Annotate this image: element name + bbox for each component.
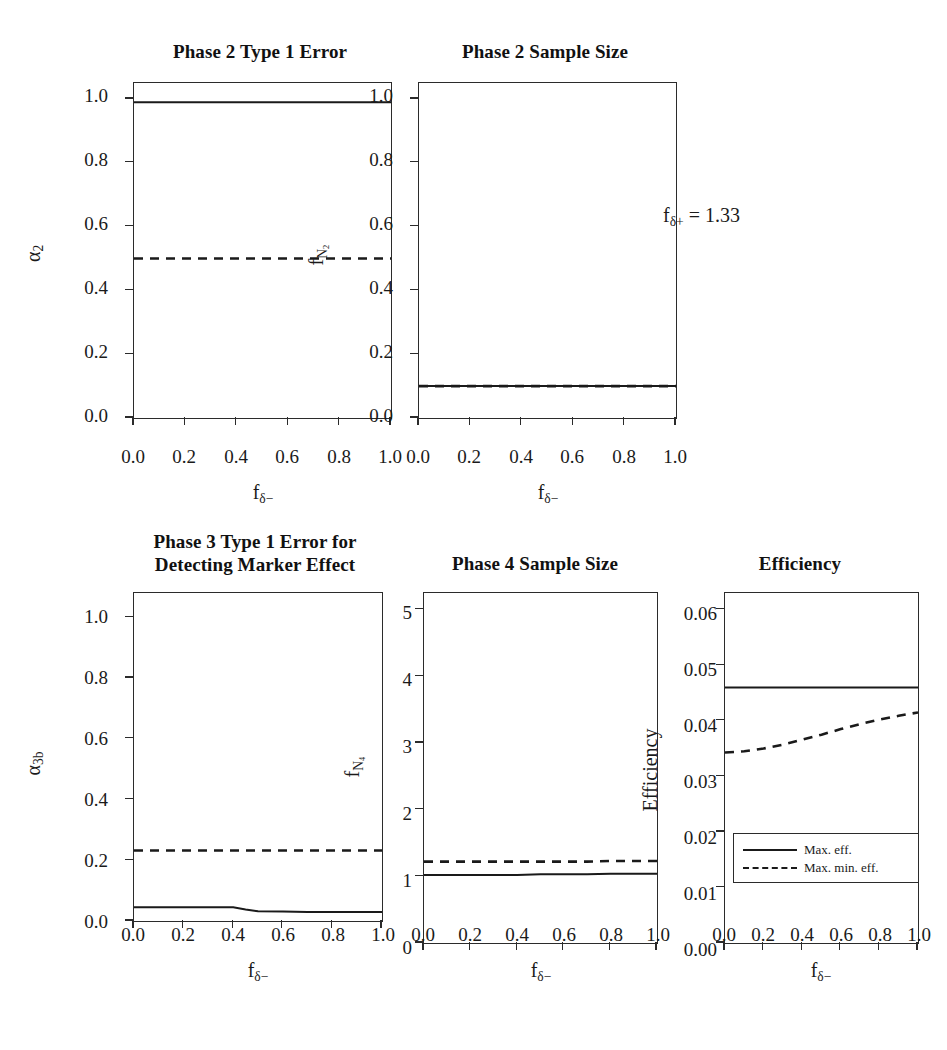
panel-title-phase4-sample-size: Phase 4 Sample Size (390, 552, 680, 575)
ytick-label: 0.01 (661, 884, 717, 903)
xtick-label: 0.6 (547, 447, 597, 466)
ytick-mark (125, 859, 133, 860)
xaxis-label-fdelta-minus: fδ− (468, 482, 628, 509)
yaxis-label-text: fN4 (341, 757, 363, 778)
ytick-mark (716, 775, 724, 776)
series-layer (725, 593, 918, 943)
ytick-mark (125, 616, 133, 617)
xtick-label: 0.4 (492, 925, 542, 944)
xtick-mark (520, 417, 521, 425)
legend-line-dashed-icon (743, 863, 797, 873)
xtick-label: 0.4 (496, 447, 546, 466)
plot-area-phase2-type1-error (133, 82, 392, 419)
yaxis-label-efficiency: Efficiency (640, 710, 660, 830)
legend-label: Max. min. eff. (804, 861, 879, 875)
xtick-label: 0.4 (208, 925, 258, 944)
ytick-mark (415, 675, 423, 676)
ytick-label: 0.2 (347, 342, 393, 361)
ytick-mark (410, 225, 418, 226)
ytick-mark (125, 676, 133, 677)
plot-area-efficiency (724, 592, 919, 944)
ytick-mark (716, 830, 724, 831)
ytick-label: 0.2 (62, 851, 108, 870)
xtick-label: 0.0 (108, 925, 158, 944)
xtick-label: 0.0 (108, 447, 158, 466)
ytick-mark (716, 664, 724, 665)
xtick-mark (287, 417, 288, 425)
ytick-mark (125, 798, 133, 799)
ytick-label: 0.8 (62, 668, 108, 687)
xtick-label: 0.8 (586, 925, 636, 944)
ytick-label: 0.8 (347, 150, 393, 169)
panel-title-efficiency: Efficiency (660, 552, 940, 575)
ytick-mark (410, 289, 418, 290)
xtick-mark (338, 417, 339, 425)
ytick-mark (415, 875, 423, 876)
xtick-label: 0.6 (262, 447, 312, 466)
ytick-mark (125, 353, 133, 354)
ytick-label: 1.0 (62, 86, 108, 105)
ytick-label: 0.03 (661, 772, 717, 791)
xtick-label: 0.8 (314, 447, 364, 466)
xtick-mark (674, 417, 675, 425)
yaxis-label-alpha3b: α3b (23, 731, 50, 795)
ytick-mark (125, 97, 133, 98)
series-layer (424, 593, 657, 943)
ytick-mark (415, 808, 423, 809)
ytick-mark (415, 608, 423, 609)
ytick-label: 0.4 (347, 278, 393, 297)
ytick-mark (410, 161, 418, 162)
xtick-label: 0.6 (258, 925, 308, 944)
series-line-solid (424, 874, 657, 875)
legend-label: Max. eff. (804, 843, 852, 857)
panel-title-phase3-type1-error: Phase 3 Type 1 Error for Detecting Marke… (105, 530, 405, 576)
yaxis-label-fn4: fN4 (342, 735, 372, 799)
ytick-mark (125, 737, 133, 738)
panel-phase2-type1-error: Phase 2 Type 1 Error (110, 40, 410, 510)
xtick-label: 0.2 (159, 447, 209, 466)
xaxis-label-fdelta-minus: fδ− (461, 960, 621, 987)
xtick-label: 1.0 (650, 447, 700, 466)
yaxis-label-alpha2: α2 (23, 223, 50, 283)
ytick-label: 5 (382, 603, 412, 622)
ytick-mark (410, 353, 418, 354)
legend-item: Max. min. eff. (743, 859, 909, 877)
ytick-label: 0.05 (661, 660, 717, 679)
ytick-mark (415, 741, 423, 742)
yaxis-label-text: α2 (22, 245, 44, 262)
ytick-mark (125, 289, 133, 290)
ytick-label: 3 (382, 737, 412, 756)
xtick-mark (469, 417, 470, 425)
legend-efficiency: Max. eff. Max. min. eff. (733, 833, 919, 883)
panel-title-phase2-type1-error: Phase 2 Type 1 Error (110, 40, 410, 63)
ytick-label: 0.06 (661, 604, 717, 623)
ytick-label: 2 (382, 804, 412, 823)
series-line-dashed (725, 712, 918, 752)
annotation-fdelta-plus: fδ+ = 1.33 (663, 205, 740, 232)
panel-title-phase2-sample-size: Phase 2 Sample Size (395, 40, 695, 63)
xtick-mark (184, 417, 185, 425)
ytick-label: 0.2 (62, 342, 108, 361)
xtick-label: 0.8 (308, 925, 358, 944)
ytick-mark (410, 97, 418, 98)
ytick-label: 0.6 (62, 729, 108, 748)
ytick-label: 1 (382, 871, 412, 890)
ytick-mark (125, 161, 133, 162)
ytick-label: 0.0 (62, 406, 108, 425)
xtick-label: 1.0 (894, 925, 944, 944)
figure-panel-grid: Phase 2 Type 1 Error 1.0 0.8 0.6 0.4 0.2… (0, 0, 947, 1050)
xtick-mark (417, 417, 418, 425)
xtick-label: 0.0 (398, 925, 448, 944)
xaxis-label-fdelta-minus: fδ− (741, 960, 901, 987)
ytick-mark (125, 225, 133, 226)
xtick-label: 0.2 (445, 925, 495, 944)
ytick-mark (716, 608, 724, 609)
xtick-mark (132, 417, 133, 425)
xtick-label: 0.2 (444, 447, 494, 466)
ytick-label: 0.6 (347, 214, 393, 233)
xtick-label: 0.4 (211, 447, 261, 466)
plot-area-phase2-sample-size (418, 82, 677, 419)
ytick-label: 0.4 (62, 790, 108, 809)
ytick-mark (716, 719, 724, 720)
legend-line-solid-icon (743, 845, 797, 855)
